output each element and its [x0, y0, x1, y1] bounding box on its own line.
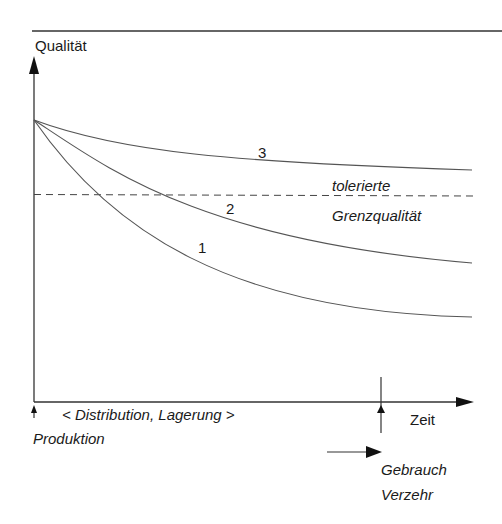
- produktion-arrow-icon: [31, 405, 37, 413]
- y-axis-label: Qualität: [35, 38, 87, 53]
- start-label: Produktion: [33, 431, 105, 446]
- threshold-label-line2: Grenzqualität: [332, 208, 421, 223]
- x-axis-arrow-icon: [456, 397, 474, 407]
- curve-label-1: 1: [198, 240, 206, 255]
- end-label-line1: Gebrauch: [381, 462, 447, 477]
- threshold-label-line1: tolerierte: [332, 178, 390, 193]
- end-label-line2: Verzehr: [381, 487, 433, 502]
- gebrauch-arrow-icon: [366, 446, 382, 458]
- curve-label-3: 3: [258, 145, 266, 160]
- curve-label-2: 2: [226, 201, 234, 216]
- y-axis-arrow-icon: [29, 56, 39, 74]
- x-axis-label: Zeit: [410, 412, 435, 427]
- use-arrow-up-icon: [377, 405, 385, 413]
- phase-label: < Distribution, Lagerung >: [62, 407, 235, 422]
- curve-2: [34, 120, 472, 263]
